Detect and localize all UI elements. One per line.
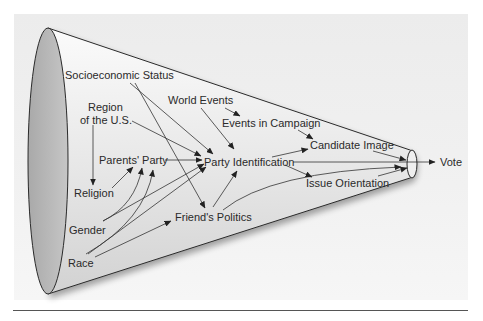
horizontal-divider bbox=[13, 310, 468, 311]
funnel-mouth bbox=[28, 28, 68, 294]
node-party-identification: Party Identification bbox=[204, 156, 295, 168]
node-world-events: World Events bbox=[168, 94, 234, 106]
node-religion: Religion bbox=[74, 187, 114, 199]
node-region-line2: of the U.S. bbox=[80, 114, 132, 126]
node-friends-politics: Friend's Politics bbox=[175, 211, 252, 223]
node-region-line1: Region bbox=[88, 101, 123, 113]
node-issue-orientation: Issue Orientation bbox=[306, 177, 389, 189]
funnel-diagram: Socioeconomic Status Region of the U.S. … bbox=[0, 0, 483, 321]
funnel-tip bbox=[407, 150, 417, 178]
node-vote: Vote bbox=[440, 156, 462, 168]
node-candidate-image: Candidate Image bbox=[310, 139, 394, 151]
node-events-in-campaign: Events in Campaign bbox=[222, 117, 320, 129]
node-parents-party: Parents' Party bbox=[99, 154, 168, 166]
node-socioeconomic-status: Socioeconomic Status bbox=[65, 69, 174, 81]
node-race: Race bbox=[68, 257, 94, 269]
node-gender: Gender bbox=[69, 224, 106, 236]
